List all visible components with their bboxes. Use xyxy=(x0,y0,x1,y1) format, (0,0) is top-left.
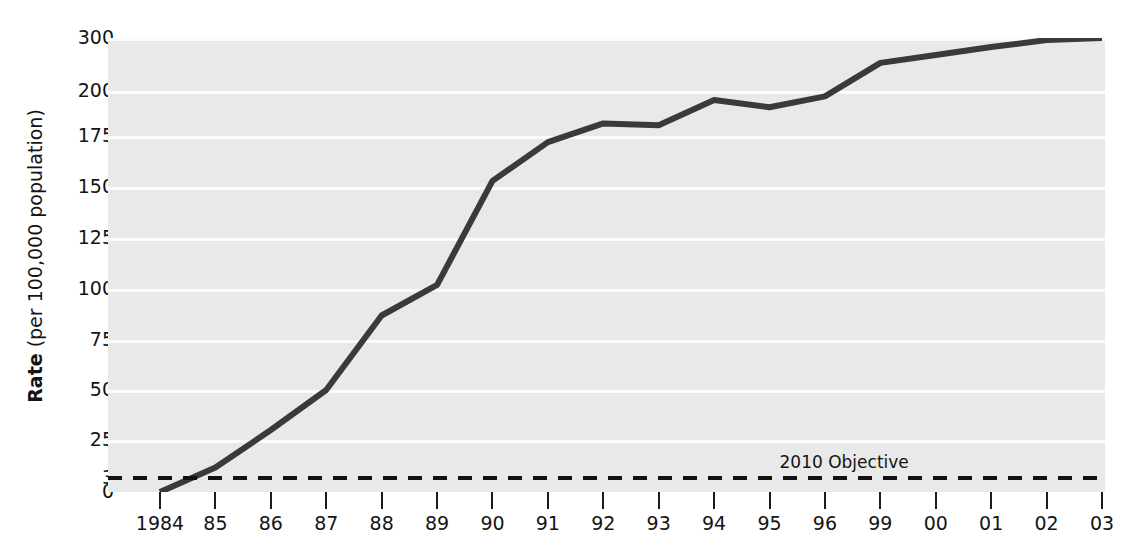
objective-annotation-label: 2010 Objective xyxy=(780,452,909,472)
x-tick-label: 87 xyxy=(314,512,338,534)
x-tick-mark xyxy=(713,492,715,509)
x-tick-label: 88 xyxy=(370,512,394,534)
x-tick-mark xyxy=(1046,492,1048,509)
y-axis-title: Rate (per 100,000 population) xyxy=(24,46,46,466)
x-tick-label: 92 xyxy=(591,512,615,534)
x-tick-mark xyxy=(990,492,992,509)
x-tick-mark xyxy=(935,492,937,509)
x-tick-label: 93 xyxy=(647,512,671,534)
data-series-svg xyxy=(108,38,1105,492)
x-tick-label: 91 xyxy=(536,512,560,534)
x-tick-label: 99 xyxy=(868,512,892,534)
x-tick-label: 90 xyxy=(480,512,504,534)
x-tick-mark xyxy=(602,492,604,509)
y-axis-title-rest: (per 100,000 population) xyxy=(24,109,46,353)
x-tick-mark xyxy=(658,492,660,509)
x-tick-mark xyxy=(547,492,549,509)
y-tick-label: 150 xyxy=(54,177,114,196)
x-tick-label: 89 xyxy=(425,512,449,534)
x-tick-label: 85 xyxy=(203,512,227,534)
x-tick-mark xyxy=(491,492,493,509)
x-tick-mark xyxy=(879,492,881,509)
y-tick-label: 75 xyxy=(54,330,114,349)
y-axis-title-bold: Rate xyxy=(24,353,46,402)
y-tick-label: 50 xyxy=(54,380,114,399)
y-tick-label: 25 xyxy=(54,430,114,449)
y-tick-label: 100 xyxy=(54,279,114,298)
x-tick-mark xyxy=(325,492,327,509)
x-tick-mark xyxy=(381,492,383,509)
x-tick-mark xyxy=(214,492,216,509)
x-tick-label: 02 xyxy=(1034,512,1058,534)
y-tick-label: 200 xyxy=(54,81,114,100)
x-tick-label: 96 xyxy=(813,512,837,534)
series-line-rate xyxy=(160,38,1102,492)
y-tick-label: 125 xyxy=(54,228,114,247)
x-tick-mark xyxy=(436,492,438,509)
x-tick-label: 86 xyxy=(259,512,283,534)
x-tick-label: 00 xyxy=(924,512,948,534)
x-tick-label: 03 xyxy=(1090,512,1114,534)
y-tick-label: 3 xyxy=(54,468,114,487)
y-tick-label: 175 xyxy=(54,126,114,145)
x-tick-mark xyxy=(824,492,826,509)
y-tick-label: 300 xyxy=(54,28,114,47)
x-tick-mark xyxy=(769,492,771,509)
x-tick-label: 95 xyxy=(757,512,781,534)
plot-area xyxy=(108,38,1105,492)
x-tick-mark xyxy=(159,492,161,509)
x-tick-label: 94 xyxy=(702,512,726,534)
x-tick-mark xyxy=(270,492,272,509)
x-tick-label: 1984 xyxy=(136,512,184,534)
line-chart: Rate (per 100,000 population) 0325507510… xyxy=(0,0,1132,548)
x-tick-label: 01 xyxy=(979,512,1003,534)
x-tick-mark xyxy=(1101,492,1103,509)
